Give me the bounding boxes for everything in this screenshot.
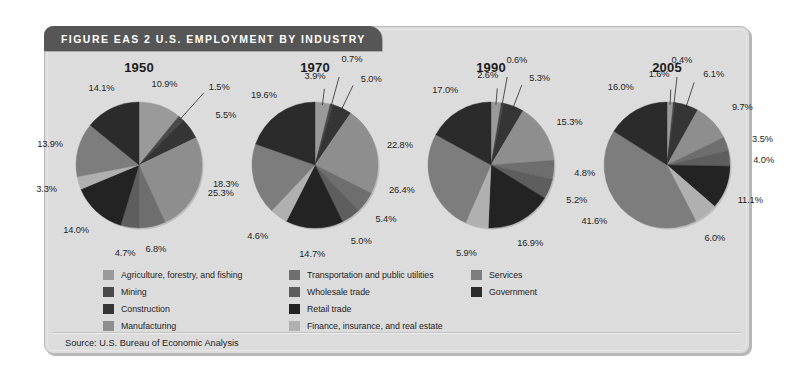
- legend-swatch-retail: [289, 304, 300, 314]
- legend-item-label: Agriculture, forestry, and fishing: [121, 270, 242, 280]
- pie-slice-value-label: 0.7%: [342, 54, 363, 64]
- pie-slice-value-label: 5.4%: [376, 214, 397, 224]
- pie-label-leader-line: [341, 85, 353, 110]
- pie-slice-value-label: 3.5%: [752, 134, 773, 144]
- pie-slice-value-label: 6.0%: [704, 233, 725, 243]
- pie-slice-value-label: 4.0%: [753, 155, 774, 165]
- pie-slice-value-label: 14.0%: [63, 225, 89, 235]
- legend-item-label: Construction: [121, 304, 170, 314]
- pie-slice-value-label: 10.9%: [152, 79, 178, 89]
- legend-swatch-government: [471, 287, 482, 297]
- pie-label-leader-line: [686, 82, 694, 107]
- legend-swatch-manufacturing: [103, 321, 114, 331]
- pie-plot-area: 2.6%0.6%5.3%15.3%4.8%5.2%16.9%5.9%26.4%1…: [403, 77, 579, 249]
- pie-plot-area: 1.6%0.4%6.1%9.7%3.5%4.0%11.1%6.0%41.6%16…: [579, 77, 755, 249]
- pie-label-leader-line: [179, 93, 203, 120]
- pie-label-leader-line: [674, 77, 677, 105]
- legend-swatch-construction: [103, 304, 114, 314]
- legend-swatch-finance: [289, 321, 300, 331]
- pie-slice-value-label: 5.3%: [529, 73, 550, 83]
- figure-panel: 195010.9%1.5%5.5%25.3%6.8%4.7%14.0%3.3%1…: [44, 26, 750, 354]
- pie-slice-value-label: 16.9%: [517, 238, 543, 248]
- pie-charts-row: 195010.9%1.5%5.5%25.3%6.8%4.7%14.0%3.3%1…: [51, 60, 743, 265]
- pie-chart-1990: 19902.6%0.6%5.3%15.3%4.8%5.2%16.9%5.9%26…: [403, 60, 579, 265]
- figure-screenshot: 195010.9%1.5%5.5%25.3%6.8%4.7%14.0%3.3%1…: [0, 0, 793, 382]
- pie-slice-value-label: 26.4%: [389, 185, 415, 195]
- pie-chart-year-label: 1950: [124, 60, 154, 75]
- legend-swatch-mining: [103, 287, 114, 297]
- legend-item-label: Finance, insurance, and real estate: [307, 321, 443, 331]
- legend-item[interactable]: Mining: [103, 284, 242, 300]
- legend-item-label: Services: [489, 270, 522, 280]
- pie-slice-value-label: 9.7%: [732, 102, 753, 112]
- pie-label-leader-line: [513, 85, 522, 109]
- pie-graphic: [51, 77, 227, 249]
- pie-plot-area: 10.9%1.5%5.5%25.3%6.8%4.7%14.0%3.3%13.9%…: [51, 77, 227, 249]
- legend-item-label: Mining: [121, 287, 147, 297]
- legend-item[interactable]: Agriculture, forestry, and fishing: [103, 267, 242, 283]
- pie-slice-value-label: 6.1%: [703, 69, 724, 79]
- pie-slice-value-label: 2.6%: [477, 70, 498, 80]
- pie-slice-value-label: 14.7%: [299, 249, 325, 259]
- legend-item-label: Transportation and public utilities: [307, 270, 434, 280]
- legend-item-label: Retail trade: [307, 304, 351, 314]
- pie-chart-1970: 19703.9%0.7%5.0%22.8%5.4%5.0%14.7%4.6%18…: [227, 60, 403, 265]
- legend-swatch-agriculture: [103, 270, 114, 280]
- pie-slice-value-label: 5.0%: [361, 74, 382, 84]
- legend-item[interactable]: Transportation and public utilities: [289, 267, 443, 283]
- pie-slice-value-label: 18.3%: [213, 179, 239, 189]
- legend-swatch-transportation: [289, 270, 300, 280]
- pie-slice-value-label: 13.9%: [37, 139, 63, 149]
- source-note: Source: U.S. Bureau of Economic Analysis: [65, 338, 239, 348]
- source-divider: [53, 332, 741, 333]
- legend-column-2: Transportation and public utilitiesWhole…: [289, 267, 443, 335]
- pie-chart-2005: 20051.6%0.4%6.1%9.7%3.5%4.0%11.1%6.0%41.…: [579, 60, 755, 265]
- pie-slice-value-label: 3.9%: [305, 71, 326, 81]
- figure-header-tab: FIGURE EAS 2 U.S. EMPLOYMENT BY INDUSTRY: [44, 26, 382, 51]
- pie-slice-value-label: 5.0%: [351, 236, 372, 246]
- pie-graphic: [403, 77, 579, 249]
- pie-label-leader-line: [331, 77, 341, 107]
- legend-column-1: Agriculture, forestry, and fishingMining…: [103, 267, 242, 335]
- pie-slice-value-label: 19.6%: [251, 90, 277, 100]
- pie-slice-value-label: 17.0%: [432, 85, 458, 95]
- pie-plot-area: 3.9%0.7%5.0%22.8%5.4%5.0%14.7%4.6%18.3%1…: [227, 77, 403, 249]
- legend-item-label: Wholesale trade: [307, 287, 370, 297]
- pie-slice-value-label: 4.6%: [247, 231, 268, 241]
- pie-slice-value-label: 16.0%: [608, 82, 634, 92]
- pie-slice-value-label: 1.6%: [649, 69, 670, 79]
- legend-item-label: Government: [489, 287, 537, 297]
- pie-slice-value-label: 14.1%: [89, 83, 115, 93]
- legend-item[interactable]: Retail trade: [289, 301, 443, 317]
- pie-slice-value-label: 0.4%: [671, 55, 692, 65]
- legend-item[interactable]: Services: [471, 267, 537, 283]
- legend-item[interactable]: Government: [471, 284, 537, 300]
- pie-slice-value-label: 6.8%: [145, 244, 166, 254]
- chart-legend: Agriculture, forestry, and fishingMining…: [51, 267, 743, 329]
- legend-item[interactable]: Construction: [103, 301, 242, 317]
- figure-title: FIGURE EAS 2 U.S. EMPLOYMENT BY INDUSTRY: [61, 33, 366, 45]
- pie-slice-value-label: 0.6%: [506, 55, 527, 65]
- legend-swatch-services: [471, 270, 482, 280]
- pie-slice-value-label: 41.6%: [581, 216, 607, 226]
- legend-item-label: Manufacturing: [121, 321, 176, 331]
- legend-item[interactable]: Wholesale trade: [289, 284, 443, 300]
- pie-chart-1950: 195010.9%1.5%5.5%25.3%6.8%4.7%14.0%3.3%1…: [51, 60, 227, 265]
- pie-slice-value-label: 4.7%: [115, 248, 136, 258]
- pie-label-leader-line: [502, 77, 508, 106]
- legend-swatch-wholesale: [289, 287, 300, 297]
- pie-slice-value-label: 11.1%: [738, 195, 763, 205]
- legend-column-3: ServicesGovernment: [471, 267, 537, 301]
- pie-slice-value-label: 5.9%: [456, 248, 477, 258]
- pie-slice-value-label: 3.3%: [36, 184, 57, 194]
